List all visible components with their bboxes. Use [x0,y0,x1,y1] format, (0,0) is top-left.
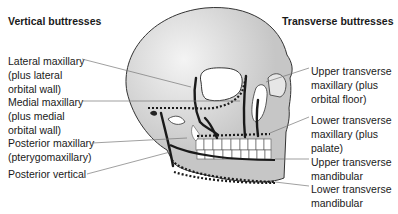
skull-diagram [0,0,398,214]
nasal-bone [268,74,286,97]
orbit [200,68,242,101]
